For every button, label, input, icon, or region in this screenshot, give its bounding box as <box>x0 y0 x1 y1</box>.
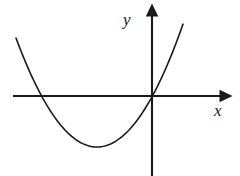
coordinate-plane-graphic <box>0 0 240 176</box>
y-axis-label: y <box>123 11 131 28</box>
x-axis-label: x <box>214 102 222 119</box>
curve-group <box>16 24 183 147</box>
axes-group <box>13 14 222 176</box>
parabola-curve <box>16 24 183 147</box>
graph-figure: y x <box>0 0 240 176</box>
